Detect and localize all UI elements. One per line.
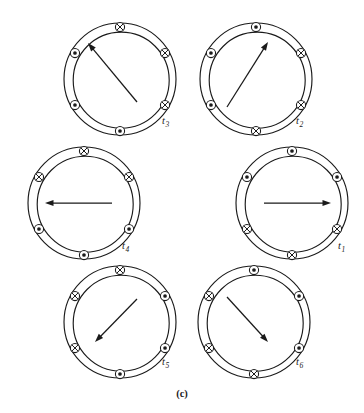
current-out-of-page-dot-icon	[297, 346, 301, 350]
coil-marker-cross-t6-3	[249, 369, 258, 378]
stator-panel-t5: t5	[64, 265, 176, 378]
coil-marker-cross-t5-0	[115, 265, 124, 274]
time-label-subscript-t1: 1	[342, 245, 346, 254]
arrow-head-t2	[261, 42, 268, 51]
time-label-subscript-t2: 2	[300, 120, 304, 129]
current-out-of-page-dot-icon	[118, 129, 122, 133]
current-out-of-page-dot-icon	[163, 346, 167, 350]
stator-panel-t1: t1	[236, 146, 348, 259]
coil-marker-cross-t1-2	[242, 224, 251, 233]
stator-inner-circle-t6	[207, 275, 303, 371]
coil-marker-dot-t2-2	[206, 100, 215, 109]
arrow-head-t1	[323, 200, 332, 206]
coil-marker-cross-t4-1	[34, 172, 43, 181]
coil-marker-dot-t4-2	[34, 224, 43, 233]
current-out-of-page-dot-icon	[37, 227, 41, 231]
time-label-t4: t4	[122, 240, 130, 254]
current-out-of-page-dot-icon	[82, 253, 86, 257]
coil-marker-dot-t6-0	[249, 265, 258, 274]
coil-marker-cross-t4-0	[79, 146, 88, 155]
coil-marker-cross-t3-5	[160, 48, 169, 57]
coil-marker-cross-t6-2	[204, 343, 213, 352]
stator-outer-circle-t6	[198, 266, 310, 378]
coil-marker-dot-t4-3	[79, 250, 88, 259]
time-label-subscript-t3: 3	[165, 120, 170, 129]
current-out-of-page-dot-icon	[252, 268, 256, 272]
current-out-of-page-dot-icon	[335, 175, 339, 179]
stator-panel-t4: t4	[28, 146, 140, 259]
arrow-shaft-t2	[227, 47, 265, 107]
coil-marker-dot-t1-5	[332, 172, 341, 181]
coil-marker-dot-t3-2	[70, 100, 79, 109]
current-out-of-page-dot-icon	[163, 294, 167, 298]
coil-marker-dot-t3-1	[70, 48, 79, 57]
stator-inner-circle-t3	[73, 32, 169, 128]
coil-marker-cross-t1-4	[332, 224, 341, 233]
stator-panel-t2: t2	[200, 22, 312, 135]
stator-outer-circle-t5	[64, 266, 176, 378]
coil-marker-cross-t2-5	[296, 48, 305, 57]
time-label-t1: t1	[338, 240, 345, 254]
rotating-field-figure: t3t2t4t1t5t6(c)	[0, 0, 364, 413]
arrow-shaft-t3	[92, 48, 137, 102]
current-out-of-page-dot-icon	[209, 103, 213, 107]
current-out-of-page-dot-icon	[290, 149, 294, 153]
current-out-of-page-dot-icon	[254, 25, 258, 29]
current-out-of-page-dot-icon	[118, 372, 122, 376]
time-label-t5: t5	[162, 356, 170, 370]
coil-marker-dot-t5-5	[160, 291, 169, 300]
time-label-subscript-t5: 5	[166, 361, 170, 370]
coil-marker-cross-t5-1	[70, 291, 79, 300]
coil-marker-cross-t3-4	[160, 100, 169, 109]
current-out-of-page-dot-icon	[73, 51, 77, 55]
coil-marker-cross-t2-4	[296, 100, 305, 109]
time-label-subscript-t6: 6	[300, 361, 304, 370]
current-out-of-page-dot-icon	[127, 227, 131, 231]
stator-outer-circle-t3	[64, 23, 176, 135]
coil-marker-dot-t5-3	[115, 369, 124, 378]
stator-inner-circle-t5	[73, 275, 169, 371]
field-vector-arrow-t5	[95, 299, 137, 342]
coil-marker-dot-t3-3	[115, 126, 124, 135]
coil-marker-cross-t1-3	[287, 250, 296, 259]
time-label-subscript-t4: 4	[126, 245, 130, 254]
coil-marker-dot-t2-0	[251, 22, 260, 31]
coil-marker-dot-t4-4	[124, 224, 133, 233]
field-vector-arrow-t6	[227, 297, 268, 342]
coil-marker-dot-t1-0	[287, 146, 296, 155]
arrow-shaft-t5	[99, 299, 137, 337]
time-label-t2: t2	[296, 115, 304, 129]
coil-marker-cross-t4-5	[124, 172, 133, 181]
time-label-t6: t6	[296, 356, 304, 370]
coil-marker-cross-t2-3	[251, 126, 260, 135]
field-vector-arrow-t3	[88, 43, 137, 102]
figure-canvas: t3t2t4t1t5t6(c)	[0, 0, 364, 413]
current-out-of-page-dot-icon	[73, 103, 77, 107]
coil-marker-cross-t5-2	[70, 343, 79, 352]
time-label-t3: t3	[162, 115, 170, 129]
figure-caption: (c)	[176, 388, 188, 400]
stator-inner-circle-t2	[209, 32, 305, 128]
stator-panel-t3: t3	[64, 22, 176, 135]
arrow-head-t4	[45, 200, 54, 206]
current-out-of-page-dot-icon	[297, 294, 301, 298]
coil-marker-dot-t2-1	[206, 48, 215, 57]
current-out-of-page-dot-icon	[209, 51, 213, 55]
field-vector-arrow-t4	[45, 200, 112, 206]
arrow-shaft-t6	[227, 297, 264, 337]
coil-marker-cross-t3-0	[115, 22, 124, 31]
current-out-of-page-dot-icon	[245, 175, 249, 179]
stator-panel-t6: t6	[198, 265, 310, 378]
coil-marker-dot-t1-1	[242, 172, 251, 181]
coil-marker-cross-t6-1	[204, 291, 213, 300]
field-vector-arrow-t2	[227, 42, 268, 107]
field-vector-arrow-t1	[264, 200, 331, 206]
coil-marker-dot-t6-5	[294, 291, 303, 300]
coil-marker-dot-t5-4	[160, 343, 169, 352]
coil-marker-dot-t6-4	[294, 343, 303, 352]
